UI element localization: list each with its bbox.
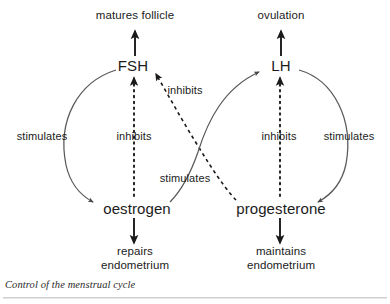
node-maintains-endometrium-line1: maintains: [256, 245, 306, 258]
node-lh: LH: [271, 57, 290, 74]
diagram-canvas: [0, 0, 390, 304]
node-repairs-endometrium-line1: repairs: [117, 245, 153, 258]
node-matures-follicle: matures follicle: [96, 9, 174, 22]
figure-caption: Control of the menstrual cycle: [5, 279, 135, 290]
node-ovulation: ovulation: [258, 9, 305, 22]
edge-label-oestrogen-to-lh: stimulates: [160, 172, 211, 185]
edge-label-oestrogen-to-fsh: inhibits: [116, 130, 151, 143]
edge-label-lh-to-progesterone: stimulates: [324, 130, 375, 143]
menstrual-cycle-diagram: matures follicle ovulation FSH LH oestro…: [0, 0, 390, 304]
edge-label-fsh-to-oestrogen: stimulates: [17, 130, 68, 143]
node-repairs-endometrium-line2: endometrium: [101, 259, 169, 272]
edge-label-progesterone-to-lh: inhibits: [261, 130, 296, 143]
edge-fsh-to-oestrogen-stimulates: [64, 70, 116, 202]
node-fsh: FSH: [118, 57, 148, 74]
caption-divider-shadow: [3, 298, 387, 299]
node-maintains-endometrium-line2: endometrium: [247, 259, 315, 272]
node-progesterone: progesterone: [236, 200, 326, 217]
edge-label-progesterone-to-fsh: inhibits: [167, 84, 202, 97]
node-oestrogen: oestrogen: [103, 200, 171, 217]
